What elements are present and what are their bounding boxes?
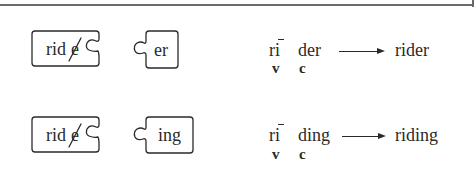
arrowhead-icon-1 [377, 48, 385, 54]
macron-1 [278, 39, 284, 40]
syllable-2-1: ri [269, 126, 280, 144]
arrowhead-icon-2 [378, 133, 386, 139]
result-word-2: riding [395, 126, 438, 144]
result-word-1: rider [395, 41, 429, 59]
vowel-label-2: v [272, 147, 280, 162]
base-piece-text-2: rid [46, 126, 66, 144]
arrow-line-2 [342, 136, 378, 137]
base-piece-text-1: rid [46, 40, 66, 58]
syllable-1-1: ri [269, 41, 280, 59]
syllable-1-2: der [298, 41, 321, 59]
consonant-label-1: c [299, 61, 306, 76]
macron-2 [278, 124, 284, 125]
puzzle-pieces [0, 0, 475, 171]
syllable-2-2: ding [298, 126, 330, 144]
arrow-line-1 [339, 51, 377, 52]
consonant-label-2: c [299, 147, 306, 162]
vowel-label-1: v [272, 61, 280, 76]
suffix-piece-text-2: ing [158, 126, 181, 144]
crossed-letter-1: e [71, 40, 79, 58]
crossed-letter-2: e [71, 126, 79, 144]
suffix-piece-text-1: er [154, 41, 168, 59]
